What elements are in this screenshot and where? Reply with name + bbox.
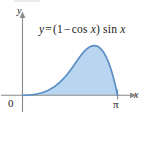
equation-equals: =	[44, 23, 53, 35]
equation-minus: −	[63, 23, 72, 35]
equation-cos: cos	[72, 23, 88, 35]
x-axis-label: x	[134, 90, 138, 100]
origin-label: 0	[8, 98, 14, 109]
plot-canvas	[0, 0, 145, 142]
equation-sin: sin	[103, 23, 117, 35]
equation-sin-arg: x	[120, 23, 125, 35]
x-tick-label-pi: π	[113, 99, 119, 110]
y-axis-label: y	[17, 6, 21, 16]
equation-annotation: y=(1−cos x) sin x	[39, 24, 126, 36]
equation-close-paren: )	[96, 23, 100, 35]
figure-container: y x 0 π y=(1−cos x) sin x	[0, 0, 145, 142]
